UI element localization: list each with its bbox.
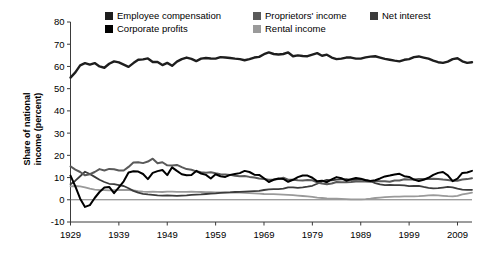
y-tick-label: 30 bbox=[54, 128, 65, 139]
chart-svg: -1001020304050607080 1929193919491959196… bbox=[0, 0, 479, 253]
y-tick-label: -10 bbox=[51, 216, 65, 227]
x-tick-label: 1939 bbox=[108, 229, 129, 240]
series-line-employee-compensation bbox=[71, 52, 473, 77]
x-tick-label: 1949 bbox=[157, 229, 178, 240]
y-tick-label: 50 bbox=[54, 83, 65, 94]
x-tick-label: 1999 bbox=[399, 229, 420, 240]
chart-figure: Share of national income (percent) Emplo… bbox=[0, 0, 479, 253]
y-tick-label: 10 bbox=[54, 172, 65, 183]
x-tick-label: 1959 bbox=[205, 229, 226, 240]
y-tick-label: 40 bbox=[54, 105, 65, 116]
series-line-net-interest bbox=[71, 172, 473, 196]
y-tick-label: 70 bbox=[54, 39, 65, 50]
x-tick-label: 1969 bbox=[253, 229, 274, 240]
y-tick-label: 60 bbox=[54, 61, 65, 72]
y-axis-ticks: -1001020304050607080 bbox=[51, 16, 71, 227]
series-line-corporate-profits bbox=[71, 167, 473, 207]
x-tick-label: 1929 bbox=[60, 229, 81, 240]
data-series-group bbox=[71, 52, 473, 206]
plot-area: -1001020304050607080 1929193919491959196… bbox=[0, 0, 479, 253]
x-axis-ticks: 192919391949195919691979198919992009 bbox=[60, 222, 468, 240]
x-tick-label: 2009 bbox=[447, 229, 468, 240]
x-tick-label: 1989 bbox=[350, 229, 371, 240]
y-tick-label: 0 bbox=[59, 194, 64, 205]
y-tick-label: 20 bbox=[54, 150, 65, 161]
y-tick-label: 80 bbox=[54, 16, 65, 27]
x-tick-label: 1979 bbox=[302, 229, 323, 240]
series-line-rental-income bbox=[71, 186, 473, 199]
